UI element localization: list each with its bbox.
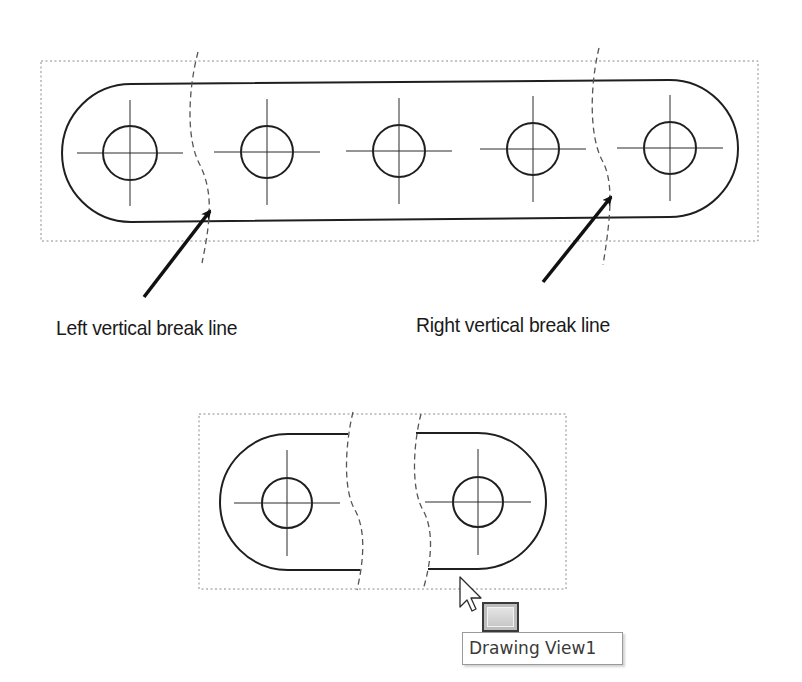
- top-drawing-view[interactable]: [41, 48, 758, 265]
- hole: [480, 96, 586, 202]
- hole-group: [77, 95, 723, 206]
- tooltip: Drawing View1: [462, 632, 623, 665]
- drawing-view-icon-inner: [487, 607, 514, 627]
- hole: [617, 95, 723, 201]
- callout-label-left: Left vertical break line: [56, 316, 237, 340]
- callout-arrow-left: [144, 211, 210, 297]
- broken-drawing-view[interactable]: [199, 412, 566, 590]
- callout-arrow-right: [543, 197, 611, 282]
- mouse-pointer-icon: [460, 577, 481, 611]
- hole: [77, 100, 183, 206]
- slot-right-piece: [416, 433, 546, 569]
- hole: [425, 449, 531, 555]
- tooltip-label: Drawing View1: [469, 638, 596, 658]
- slot-left-piece: [220, 434, 360, 570]
- hole: [234, 450, 340, 556]
- callout-label-right: Right vertical break line: [416, 313, 610, 337]
- hole: [214, 99, 320, 205]
- hole-group: [234, 449, 531, 556]
- break-line-left[interactable]: [347, 412, 363, 590]
- drawing-canvas[interactable]: [0, 0, 802, 682]
- drawing-view-icon: [482, 602, 519, 632]
- break-lines[interactable]: [347, 412, 431, 590]
- hole: [346, 98, 452, 204]
